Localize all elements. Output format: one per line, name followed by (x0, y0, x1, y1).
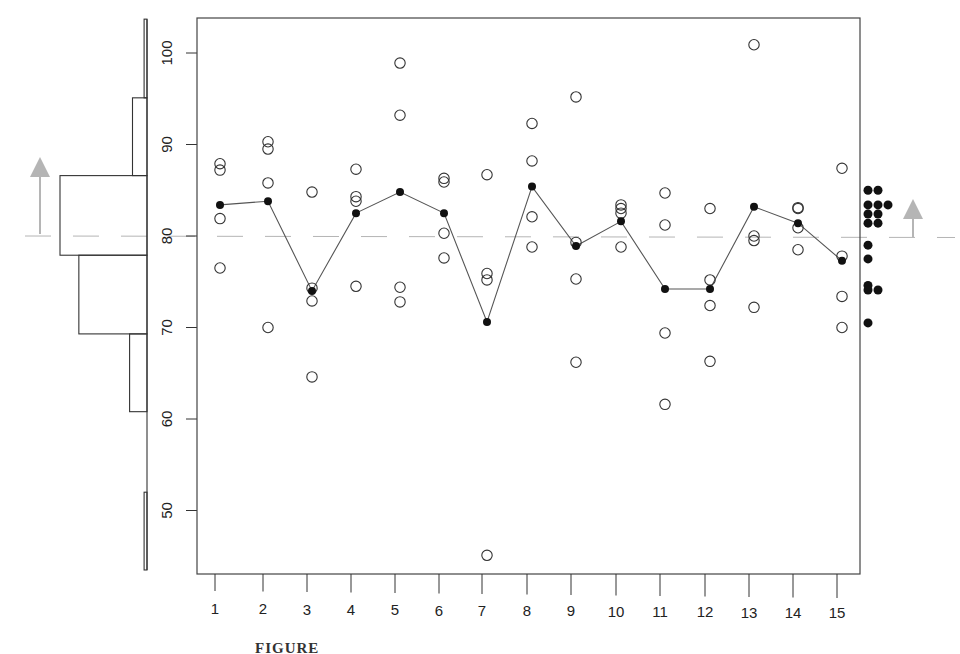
dotplot-point (864, 285, 873, 294)
dotplot-point (874, 285, 883, 294)
observation-point (571, 357, 581, 367)
observation-points (215, 40, 847, 561)
x-tick-label: 7 (478, 602, 486, 619)
observation-point (571, 92, 581, 102)
observation-point (705, 300, 715, 310)
x-axis: 123456789101112131415 (211, 574, 846, 621)
x-tick-label: 3 (303, 601, 311, 618)
x-tick-label: 10 (608, 603, 625, 620)
observation-point (660, 399, 670, 409)
observation-point (571, 274, 581, 284)
dotplot-point (864, 210, 873, 219)
histogram-bar (79, 255, 147, 334)
x-tick-label: 4 (347, 601, 355, 618)
x-tick-label: 1 (211, 600, 219, 617)
mean-point (750, 203, 758, 211)
y-tick-label: 50 (158, 502, 175, 519)
observation-point (527, 156, 537, 166)
observation-point (660, 188, 670, 198)
mean-point (440, 209, 448, 217)
observation-point (395, 297, 405, 307)
observation-point (215, 213, 225, 223)
observation-point (837, 322, 847, 332)
y-tick-label: 90 (158, 136, 175, 153)
observation-point (527, 118, 537, 128)
x-tick-label: 5 (391, 601, 399, 618)
dotplot-point (864, 318, 873, 327)
dotplot-point (874, 186, 883, 195)
mean-point (617, 217, 625, 225)
mean-point (572, 242, 580, 250)
x-tick-label: 8 (523, 602, 531, 619)
observation-point (395, 110, 405, 120)
dotplot-point (864, 241, 873, 250)
x-tick-label: 14 (785, 604, 802, 621)
observation-point (215, 159, 225, 169)
observation-point (616, 208, 626, 218)
mean-connecting-line (220, 187, 842, 322)
x-tick-label: 15 (829, 604, 846, 621)
right-dotplot (864, 186, 893, 328)
observation-point (351, 191, 361, 201)
observation-point (263, 322, 273, 332)
observation-point (793, 202, 803, 212)
histogram-bar (60, 176, 147, 256)
observation-point (616, 242, 626, 252)
dotplot-point (864, 254, 873, 263)
dotplot-point (864, 186, 873, 195)
mean-point (264, 197, 272, 205)
arrow-up-icon (30, 157, 50, 177)
dotplot-point (884, 200, 893, 209)
observation-point (482, 169, 492, 179)
observation-point (837, 163, 847, 173)
dotplot-point (874, 200, 883, 209)
x-tick-label: 9 (567, 602, 575, 619)
observation-point (793, 203, 803, 213)
observation-point (793, 245, 803, 255)
observation-point (705, 203, 715, 213)
observation-point (351, 164, 361, 174)
y-axis: 5060708090100 (158, 40, 197, 518)
y-tick-label: 80 (158, 228, 175, 245)
mean-points (216, 183, 846, 326)
mean-point (706, 285, 714, 293)
observation-point (215, 263, 225, 273)
mean-line (220, 187, 842, 322)
chart: 5060708090100 123456789101112131415 (0, 0, 960, 654)
observation-point (215, 165, 225, 175)
arrows (30, 157, 923, 237)
observation-point (837, 291, 847, 301)
y-tick-label: 60 (158, 411, 175, 428)
y-tick-label: 100 (158, 40, 175, 65)
observation-point (749, 231, 759, 241)
observation-point (482, 268, 492, 278)
dotplot-point (874, 210, 883, 219)
observation-point (351, 196, 361, 206)
dotplot-point (874, 219, 883, 228)
arrow-up-icon (903, 199, 923, 219)
observation-point (307, 372, 317, 382)
observation-point (351, 281, 361, 291)
observation-point (482, 550, 492, 560)
x-tick-label: 12 (697, 603, 714, 620)
observation-point (749, 40, 759, 50)
x-tick-label: 2 (259, 600, 267, 617)
observation-point (482, 275, 492, 285)
observation-point (705, 356, 715, 366)
mean-point (838, 257, 846, 265)
mean-point (308, 287, 316, 295)
histogram-bar (133, 98, 148, 176)
y-tick-label: 70 (158, 319, 175, 336)
observation-point (439, 253, 449, 263)
observation-point (307, 187, 317, 197)
dotplot-point (864, 219, 873, 228)
observation-point (527, 242, 537, 252)
x-tick-label: 6 (435, 602, 443, 619)
histogram-bar (130, 334, 147, 412)
dotplot-point (864, 200, 873, 209)
mean-point (794, 219, 802, 227)
observation-point (395, 58, 405, 68)
observation-point (660, 328, 670, 338)
observation-point (660, 220, 670, 230)
observation-point (705, 275, 715, 285)
